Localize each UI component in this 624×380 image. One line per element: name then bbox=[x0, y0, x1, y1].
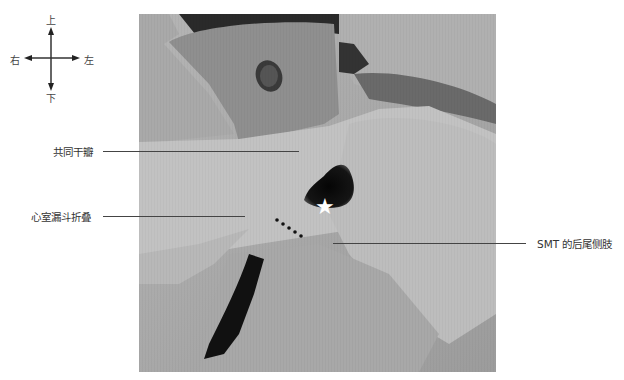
label-ventricular-infundibular-fold: 心室漏斗折叠 bbox=[31, 209, 91, 224]
specimen-illustration bbox=[139, 14, 496, 372]
leader-line-smt-limb bbox=[333, 243, 526, 244]
cross-arrows-icon bbox=[22, 12, 102, 102]
star-marker: ★ bbox=[315, 196, 335, 218]
label-smt-posterior-limb: SMT 的后尾侧肢 bbox=[537, 236, 612, 251]
label-common-trunk-valve: 共同干瓣 bbox=[53, 144, 93, 159]
compass-right-label: 右 bbox=[10, 52, 20, 67]
orientation-compass: 上 右 左 下 bbox=[22, 12, 102, 102]
leader-line-common-trunk-valve bbox=[103, 151, 299, 152]
dotted-marker bbox=[275, 218, 305, 244]
leader-line-infundibular-fold bbox=[103, 216, 245, 217]
anatomical-specimen-image: ★ bbox=[139, 14, 496, 372]
